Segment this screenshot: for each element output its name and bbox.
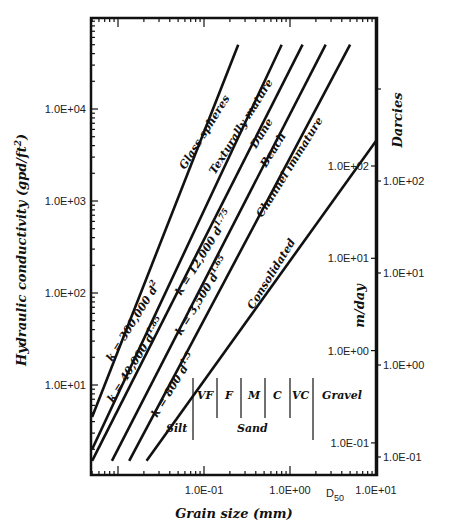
m-day-tick-label: 1.0E-01 [330, 437, 369, 449]
m-day-tick-label: 1.0E+02 [328, 160, 369, 172]
darcies-tick-label: 1.0E+01 [383, 267, 424, 279]
x-axis-title: Grain size (mm) [175, 506, 293, 521]
tick-labels: 1.0E+011.0E+021.0E+031.0E+041.0E-011.0E+… [45, 103, 425, 496]
darcies-tick-label: 1.0E+02 [383, 175, 424, 187]
m-day-tick-label: 1.0E+00 [328, 345, 369, 357]
d50-label: D50 [326, 487, 344, 503]
series-labels: Glass spheres Texturally mature Dune Bea… [177, 77, 326, 312]
y-tick-label: 1.0E+01 [45, 379, 86, 391]
plot-frame [91, 18, 377, 475]
hydraulic-conductivity-chart: 1.0E+011.0E+021.0E+031.0E+041.0E-011.0E+… [0, 0, 449, 528]
class-silt: Silt [166, 422, 187, 435]
class-f: F [224, 389, 234, 402]
class-m: M [247, 389, 261, 402]
darcies-tick-label: 1.0E+00 [383, 359, 424, 371]
class-gravel: Gravel [322, 389, 362, 402]
y-axis-title: Hydraulic conductivity (gpd/ft2) [13, 134, 29, 367]
class-vc: VC [292, 389, 310, 402]
axis-ticks [91, 18, 381, 475]
formula-800: k = 800 d1.5 [146, 349, 198, 420]
y-tick-label: 1.0E+03 [45, 195, 86, 207]
x-tick-label: 1.0E+00 [269, 484, 310, 496]
y-tick-label: 1.0E+04 [45, 103, 86, 115]
class-vf: VF [197, 389, 215, 402]
label-consolidated: Consolidated [245, 236, 299, 311]
x-tick-label: 1.0E-01 [185, 484, 224, 496]
class-sand: Sand [237, 422, 268, 435]
class-c: C [273, 389, 282, 402]
y-tick-label: 1.0E+02 [45, 287, 86, 299]
m-day-tick-label: 1.0E+01 [328, 252, 369, 264]
x-tick-label: 1.0E+01 [355, 484, 396, 496]
grain-size-classes: Silt VF F M C VC Sand Gravel [166, 378, 362, 440]
darcies-tick-label: 1.0E-01 [383, 451, 422, 463]
m-day-axis-title: m/day [352, 283, 367, 328]
darcies-axis-title: Darcies [390, 92, 405, 149]
